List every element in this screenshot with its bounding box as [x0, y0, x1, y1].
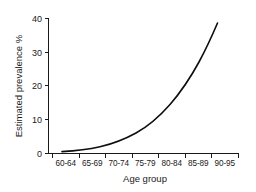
- x-tick-label-60-64: 60-64: [55, 159, 76, 168]
- y-tick-label-10: 10: [32, 115, 42, 125]
- x-tick-label-65-69: 65-69: [82, 159, 103, 168]
- x-tick-label-80-84: 80-84: [161, 159, 182, 168]
- y-axis-title: Estimated prevalence %: [13, 34, 24, 137]
- y-tick-label-30: 30: [32, 48, 42, 58]
- prevalence-curve: [62, 23, 218, 152]
- y-tick-label-0: 0: [37, 149, 42, 159]
- x-axis-title: Age group: [123, 173, 167, 184]
- chart-figure: 40 30 20 10 0 60-64 65-69 70-74 75-79 80…: [0, 0, 256, 192]
- x-tick-label-85-89: 85-89: [188, 159, 209, 168]
- y-tick-label-20: 20: [32, 81, 42, 91]
- x-tick-label-90-95: 90-95: [214, 159, 235, 168]
- y-tick-label-40: 40: [32, 14, 42, 24]
- line-chart-canvas: 40 30 20 10 0 60-64 65-69 70-74 75-79 80…: [0, 0, 256, 192]
- x-tick-label-70-74: 70-74: [108, 159, 129, 168]
- x-tick-label-75-79: 75-79: [135, 159, 156, 168]
